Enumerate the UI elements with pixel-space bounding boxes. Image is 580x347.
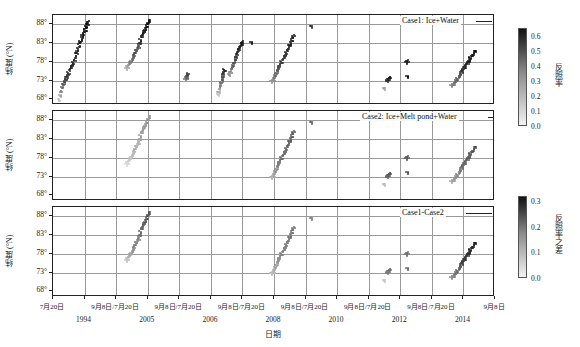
colorbar-title: 反照率 [552, 63, 563, 87]
data-point [273, 272, 275, 274]
data-point [387, 273, 389, 275]
ytick-label: 73° [37, 75, 48, 84]
xtick-mark [462, 296, 463, 299]
data-point [139, 235, 141, 237]
data-point [145, 29, 147, 31]
data-point [66, 75, 68, 77]
gridline-horizontal [53, 158, 493, 159]
ytick-mark [49, 234, 52, 235]
data-point [148, 211, 150, 213]
ytick-mark [49, 157, 52, 158]
data-point [474, 50, 476, 52]
data-point [146, 122, 148, 124]
data-point [408, 157, 410, 159]
data-point [235, 54, 237, 56]
gridline-vertical [369, 15, 370, 103]
data-point [455, 273, 457, 275]
gridline-vertical [274, 15, 275, 103]
gridline-vertical [85, 207, 86, 295]
data-point [407, 155, 409, 157]
data-point [311, 27, 313, 29]
panel-3-label-rule [466, 213, 492, 214]
data-point [251, 43, 253, 45]
data-point [474, 242, 476, 244]
yaxis-title: 纬度 (°N) [4, 124, 15, 186]
panel-3-plot-area [53, 207, 493, 295]
data-point [77, 50, 79, 52]
data-point [456, 174, 458, 176]
data-point [290, 38, 292, 40]
data-point [134, 151, 136, 153]
data-point [58, 100, 60, 102]
data-point [453, 276, 455, 278]
data-point [141, 228, 143, 230]
data-point [407, 251, 409, 253]
data-point [285, 247, 287, 249]
xtick-group-label: 9月8日/7月20日 [155, 301, 202, 311]
xtick-group-label: 9月8日 [484, 301, 505, 311]
colorbar-tick-label: 0.2 [531, 222, 540, 231]
data-point [126, 69, 128, 71]
data-point [473, 246, 475, 248]
gridline-vertical [148, 111, 149, 199]
data-point [60, 94, 62, 96]
gridline-vertical [211, 207, 212, 295]
data-point [469, 156, 471, 158]
gridline-vertical [242, 207, 243, 295]
data-point [236, 57, 238, 59]
gridline-vertical [463, 207, 464, 295]
data-point [285, 151, 287, 153]
data-point [134, 247, 136, 249]
xtick-mark [147, 296, 148, 299]
data-point [290, 230, 292, 232]
colorbar-tick-label: 0.1 [531, 248, 540, 257]
data-point [279, 162, 281, 164]
data-point [462, 263, 464, 265]
gridline-vertical [116, 207, 117, 295]
xtick-mark [273, 296, 274, 299]
data-point [451, 86, 453, 88]
data-point [85, 30, 87, 32]
data-point [468, 63, 470, 65]
data-point [146, 26, 148, 28]
data-point [285, 55, 287, 57]
panel-2 [52, 110, 494, 200]
year-label: 2005 [139, 315, 154, 324]
gridline-vertical [432, 15, 433, 103]
ytick-label: 73° [37, 171, 48, 180]
xtick-mark [84, 296, 85, 299]
data-point [128, 259, 130, 261]
data-point [126, 165, 128, 167]
data-point [146, 218, 148, 220]
figure-root: 68°73°78°83°88°纬度 (°N)Case1: Ice+Water68… [0, 0, 580, 347]
panel-1-label-rule [476, 21, 492, 22]
data-point [468, 159, 470, 161]
gridline-horizontal [53, 254, 493, 255]
data-point [88, 24, 90, 26]
colorbar-tick-label: 0.4 [531, 61, 540, 70]
data-point [79, 46, 81, 48]
data-point [474, 146, 476, 148]
gridline-vertical [432, 207, 433, 295]
xtick-mark [178, 296, 179, 299]
data-point [140, 231, 142, 233]
ytick-label: 88° [37, 210, 48, 219]
ytick-mark [49, 61, 52, 62]
data-point [384, 185, 386, 187]
ytick-mark [49, 138, 52, 139]
data-point [222, 81, 224, 83]
data-point [273, 80, 275, 82]
ytick-label: 83° [37, 133, 48, 142]
data-point [129, 159, 131, 161]
data-point [284, 57, 286, 59]
ytick-mark [49, 80, 52, 81]
gridline-vertical [116, 111, 117, 199]
data-point [455, 177, 457, 179]
gridline-vertical [463, 15, 464, 103]
data-point [219, 85, 221, 87]
data-point [456, 78, 458, 80]
panel-2-label: Case2: Ice+Melt pond+Water [360, 112, 459, 121]
panel-1-plot-area [53, 15, 493, 103]
ytick-label: 68° [37, 285, 48, 294]
data-point [218, 95, 220, 97]
